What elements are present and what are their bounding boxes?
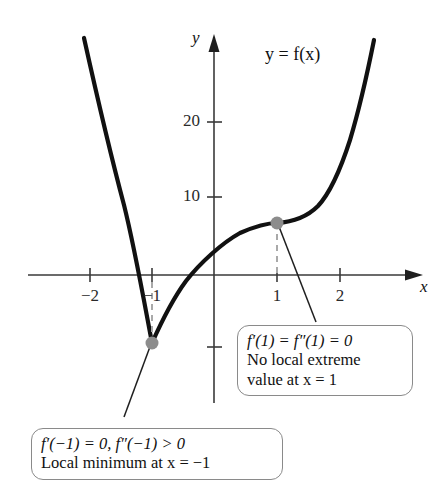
x-axis [28,268,423,282]
curve-label: y = f(x) [265,44,320,65]
callout-xminus1-line1: f′(−1) = 0, f″(−1) > 0 [41,434,273,453]
y-axis [207,34,222,403]
local-minimum-point [146,337,159,350]
inflection-saddle-point [271,217,284,230]
calculus-figure: y x y = f(x) 20 10 −2 −1 1 2 f′(1) = f″(… [0,0,444,502]
y-tick-label-20: 20 [168,111,200,131]
callout-x1-line2: No local extreme [247,350,403,369]
plot-canvas [0,0,444,502]
callout-x1-line1: f′(1) = f″(1) = 0 [247,331,403,350]
x-tick-label-minus1: −1 [134,286,170,306]
callout-xminus1-line2: Local minimum at x = −1 [41,453,273,472]
x-tick-label-2: 2 [326,286,354,306]
callout-x1-line3: value at x = 1 [247,370,403,389]
callout-x1: f′(1) = f″(1) = 0 No local extreme value… [237,325,413,396]
x-axis-label: x [420,277,428,297]
x-tick-label-1: 1 [263,286,291,306]
x-tick-label-minus2: −2 [72,286,108,306]
y-axis-label: y [192,28,200,48]
callout-xminus1: f′(−1) = 0, f″(−1) > 0 Local minimum at … [31,428,283,480]
y-tick-label-10: 10 [168,186,200,206]
